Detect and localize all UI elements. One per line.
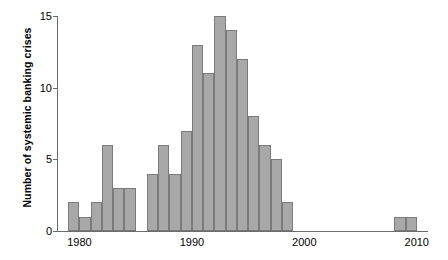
banking-crises-histogram: Number of systemic banking crises 051015… xyxy=(0,0,448,260)
x-tick-label: 2010 xyxy=(405,236,429,248)
plot-area: 051015 1980199020002010 xyxy=(57,16,428,232)
y-tick-label: 10 xyxy=(40,82,52,94)
bar xyxy=(68,202,79,231)
bar xyxy=(248,116,259,231)
bar xyxy=(169,174,180,231)
bar xyxy=(192,45,203,231)
x-tick-label: 1980 xyxy=(67,236,91,248)
y-tick-mark xyxy=(53,16,57,17)
bar xyxy=(181,131,192,231)
bar xyxy=(203,73,214,231)
bar xyxy=(214,16,225,231)
y-tick-label: 5 xyxy=(46,153,52,165)
bar xyxy=(102,145,113,231)
y-tick-label: 0 xyxy=(46,225,52,237)
y-tick-mark xyxy=(53,159,57,160)
bar xyxy=(406,217,417,231)
x-tick-label: 1990 xyxy=(180,236,204,248)
bar xyxy=(394,217,405,231)
bar xyxy=(237,59,248,231)
bar xyxy=(113,188,124,231)
y-axis-line xyxy=(57,16,58,232)
bar xyxy=(147,174,158,231)
x-axis-line xyxy=(57,231,428,232)
bar xyxy=(259,145,270,231)
bar xyxy=(91,202,102,231)
y-tick-mark xyxy=(53,88,57,89)
bar xyxy=(158,145,169,231)
bar xyxy=(226,30,237,231)
bar xyxy=(79,217,90,231)
x-tick-label: 2000 xyxy=(292,236,316,248)
bar xyxy=(124,188,135,231)
bar xyxy=(282,202,293,231)
bar xyxy=(271,159,282,231)
y-tick-label: 15 xyxy=(40,10,52,22)
y-axis-title: Number of systemic banking crises xyxy=(18,0,36,235)
y-tick-mark xyxy=(53,231,57,232)
